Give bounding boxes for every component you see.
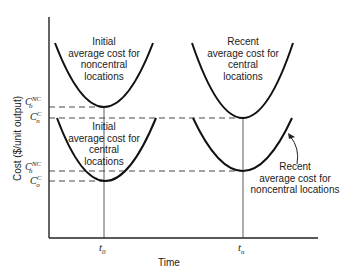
label-line: noncentral locations <box>245 184 345 196</box>
label-line: locations <box>62 156 146 168</box>
xtick-t0: t0 <box>99 241 106 256</box>
label-initial-noncentral: Initial average cost for noncentral loca… <box>62 36 146 82</box>
label-recent-central: Recent average cost for central location… <box>200 36 286 82</box>
label-line: average cost for <box>200 48 286 60</box>
label-line: average cost for <box>62 133 146 145</box>
label-line: locations <box>62 71 146 83</box>
label-line: central <box>62 144 146 156</box>
ylabel-sup: NC <box>32 95 41 103</box>
ylabel-co-nc: CNCo <box>25 95 33 110</box>
label-line: Initial <box>62 36 146 48</box>
ylabel-cn-c: CCn <box>30 110 40 125</box>
xtick-sub: n <box>241 248 245 256</box>
label-line: average cost for <box>245 173 345 185</box>
x-axis-title: Time <box>158 257 180 268</box>
y-axis-title: Cost ($/unit output) <box>12 84 23 194</box>
label-line: locations <box>200 71 286 83</box>
arrowhead-icon <box>288 133 295 139</box>
cost-diagram <box>0 0 345 273</box>
label-line: Initial <box>62 121 146 133</box>
xtick-sub: 0 <box>102 248 106 256</box>
ylabel-co-c: CCo <box>30 174 40 189</box>
label-line: average cost for <box>62 48 146 60</box>
callout-arrow <box>290 136 298 164</box>
label-line: Recent <box>200 36 286 48</box>
ylabel-sub: o <box>36 181 40 189</box>
ylabel-sup: NC <box>32 160 41 168</box>
label-initial-central: Initial average cost for central locatio… <box>62 121 146 167</box>
label-line: Recent <box>245 161 345 173</box>
label-line: central <box>200 59 286 71</box>
ylabel-sub: n <box>36 117 40 125</box>
label-recent-noncentral: Recent average cost for noncentral locat… <box>245 161 345 196</box>
xtick-tn: tn <box>238 241 245 256</box>
label-line: noncentral <box>62 59 146 71</box>
